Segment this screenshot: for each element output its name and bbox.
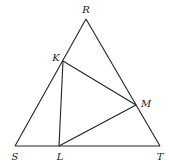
label-r: R <box>81 4 90 15</box>
segment-rt <box>86 19 160 146</box>
inner-triangle-klm <box>59 61 136 146</box>
label-k: K <box>51 52 60 63</box>
segment-rs <box>15 19 86 146</box>
geometry-diagram: R K M S L T <box>0 0 169 167</box>
label-t: T <box>157 151 165 162</box>
segment-lm <box>59 105 136 146</box>
vertex-labels: R K M S L T <box>12 4 165 162</box>
segment-km <box>63 61 136 105</box>
segment-kl <box>59 61 63 146</box>
label-l: L <box>56 151 64 162</box>
outer-triangle-rst <box>15 19 160 146</box>
label-s: S <box>12 151 19 162</box>
label-m: M <box>140 98 152 109</box>
